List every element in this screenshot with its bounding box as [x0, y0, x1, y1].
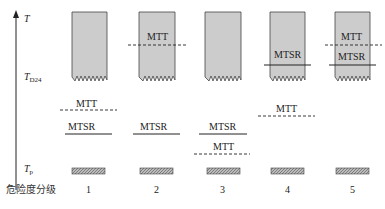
- decomposition-box: [335, 12, 370, 81]
- mtt-label: MTT: [341, 31, 362, 42]
- mtt-label: MTT: [147, 31, 168, 42]
- tp-bar: [207, 168, 240, 174]
- level-3: MTSR MTT 3: [194, 12, 250, 195]
- arrow-up-icon: [13, 10, 19, 18]
- level-2: MTT MTSR 2: [128, 12, 186, 195]
- level-number: 4: [285, 184, 290, 195]
- mtsr-label: MTSR: [140, 121, 168, 132]
- tp-bar: [72, 168, 105, 174]
- decomposition-box: [270, 12, 305, 81]
- level-1: MTT MTSR 1: [60, 12, 117, 195]
- mtsr-label: MTSR: [274, 49, 302, 60]
- level-number: 2: [154, 184, 159, 195]
- tp-bar: [271, 168, 304, 174]
- decomposition-box: [72, 12, 107, 81]
- tp-bar: [140, 168, 173, 174]
- axis-label-TD24: TD24: [24, 71, 42, 84]
- mtsr-label: MTSR: [209, 121, 237, 132]
- mtt-label: MTT: [213, 141, 234, 152]
- mtt-label: MTT: [76, 98, 97, 109]
- risk-level-diagram: T TD24 Tp 危险度分级 MTT MTSR 1 MTT MTSR 2 MT…: [0, 0, 385, 209]
- category-title: 危险度分级: [6, 183, 56, 195]
- temperature-axis: [13, 10, 19, 190]
- mtsr-label: MTSR: [338, 51, 366, 62]
- level-4: MTSR MTT 4: [258, 12, 315, 195]
- level-number: 3: [220, 184, 225, 195]
- mtt-label: MTT: [276, 103, 297, 114]
- level-5: MTT MTSR 5: [325, 12, 382, 195]
- axis-label-Tp: Tp: [24, 163, 34, 176]
- mtsr-label: MTSR: [68, 121, 96, 132]
- axis-label-T: T: [24, 13, 31, 24]
- decomposition-box: [139, 12, 175, 81]
- tp-bar: [336, 168, 369, 174]
- level-number: 5: [350, 184, 355, 195]
- level-number: 1: [86, 184, 91, 195]
- decomposition-box: [205, 12, 241, 81]
